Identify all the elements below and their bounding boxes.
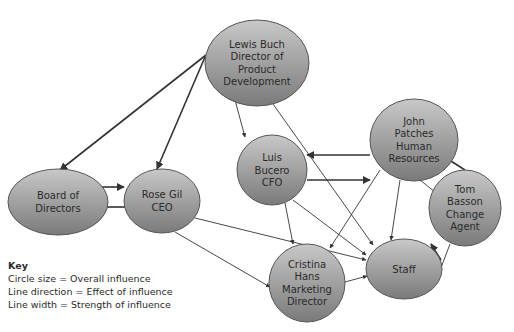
edge-john-to-staff — [391, 180, 400, 240]
edge-lewis-to-board — [60, 55, 206, 170]
node-label: Basson — [447, 196, 483, 207]
node-label: Tom — [454, 184, 475, 195]
edge-luis-to-cristina — [285, 203, 293, 244]
node-luis: LuisBuceroCFO — [237, 135, 307, 205]
node-staff: Staff — [366, 239, 442, 299]
edge-john-to-cristina — [330, 170, 380, 248]
node-cristina: CristinaHansMarketingDirector — [269, 244, 345, 322]
node-label: Development — [223, 76, 290, 87]
node-label: Change — [446, 209, 484, 220]
node-label: Staff — [392, 264, 416, 275]
node-label: John — [402, 116, 425, 127]
legend-key: Key Circle size = Overall influence Line… — [8, 259, 173, 311]
node-label: Human — [396, 141, 432, 152]
edge-cristina-to-staff — [345, 276, 367, 282]
node-label: Agent — [450, 221, 480, 232]
node-label: Directors — [35, 203, 80, 214]
node-label: Marketing — [282, 284, 332, 295]
node-tom: TomBassonChangeAgent — [429, 170, 501, 246]
edge-lewis-to-luis — [235, 100, 245, 137]
node-label: Hans — [294, 271, 319, 282]
legend-title: Key — [8, 259, 173, 272]
node-label: CEO — [151, 202, 172, 213]
node-label: Luis — [262, 152, 282, 163]
node-label: Patches — [395, 128, 434, 139]
node-lewis: Lewis BuchDirector ofProductDevelopment — [205, 20, 309, 106]
node-board: Board ofDirectors — [8, 169, 108, 235]
node-label: Bucero — [255, 165, 290, 176]
node-label: Cristina — [288, 259, 326, 270]
node-label: CFO — [262, 177, 283, 188]
node-label: Board of — [37, 190, 80, 201]
node-label: Product — [238, 64, 276, 75]
edge-rose-to-staff — [195, 218, 366, 260]
node-label: Resources — [388, 153, 439, 164]
node-john: JohnPatchesHumanResources — [370, 99, 458, 181]
legend-line-circle-size: Circle size = Overall influence — [8, 272, 173, 285]
edge-rose-to-cristina — [175, 232, 270, 287]
node-rose: Rose GilCEO — [124, 169, 200, 233]
node-label: Rose Gil — [142, 189, 182, 200]
node-label: Lewis Buch — [229, 39, 285, 50]
node-label: Director — [287, 296, 328, 307]
legend-line-width: Line width = Strength of influence — [8, 298, 173, 311]
node-label: Director of — [231, 51, 284, 62]
legend-line-direction: Line direction = Effect of influence — [8, 285, 173, 298]
